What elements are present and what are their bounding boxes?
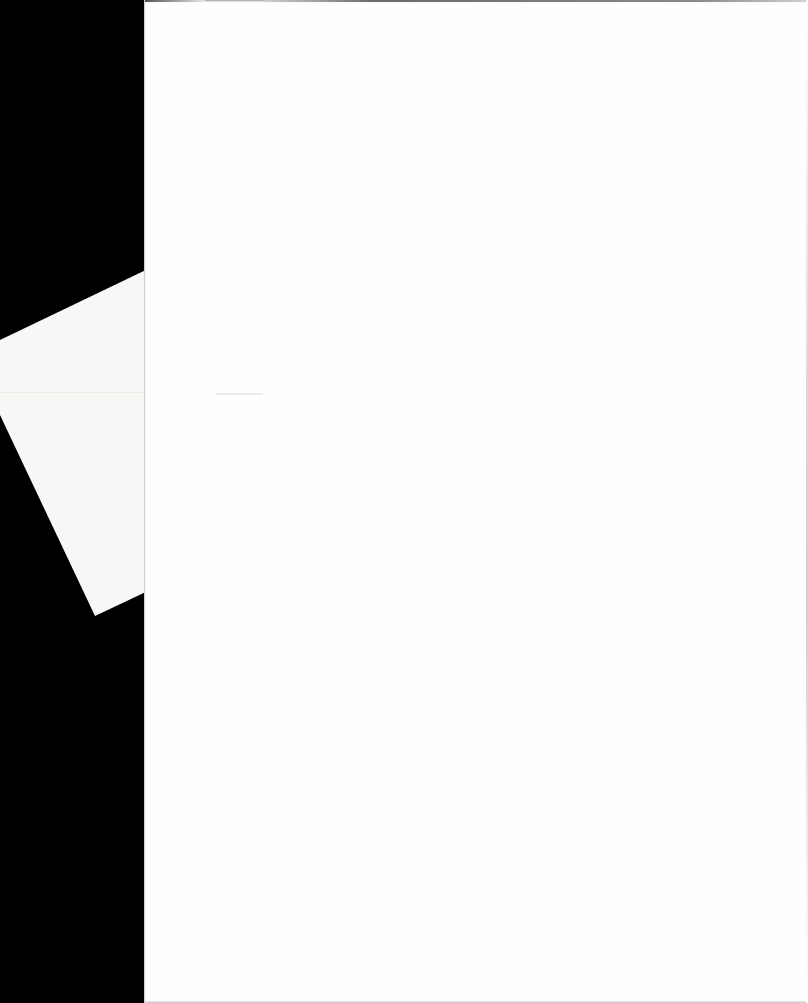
front-paper-sheet xyxy=(145,0,808,1003)
front-sheet-top-shadow xyxy=(265,0,805,2)
faint-paper-mark xyxy=(215,393,263,395)
front-sheet-top-shadow-left xyxy=(145,0,205,2)
photo-scene xyxy=(0,0,808,1003)
back-paper-fold-line xyxy=(0,392,148,393)
